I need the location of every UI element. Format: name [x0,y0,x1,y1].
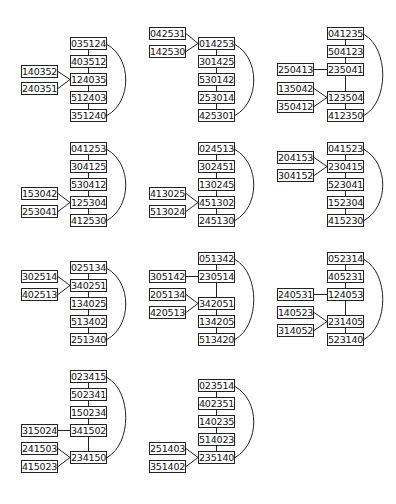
side-node: 253041 [21,205,58,218]
main-node: 341502 [70,424,107,437]
main-node: 035124 [70,37,107,50]
main-node: 125304 [70,196,107,209]
main-node: 023415 [70,370,107,383]
main-node: 051342 [198,252,235,265]
main-node: 530142 [198,73,235,86]
main-node: 134025 [70,297,107,310]
main-node: 235140 [198,451,235,464]
main-node: 134205 [198,315,235,328]
main-node: 123504 [327,91,364,104]
side-node: 241503 [21,442,58,455]
main-node: 514023 [198,433,235,446]
main-node: 502341 [70,388,107,401]
main-node: 301425 [198,55,235,68]
main-node: 041235 [327,27,364,40]
main-node: 412350 [327,109,364,122]
main-node: 504123 [327,45,364,58]
main-node: 124035 [70,73,107,86]
side-node: 413025 [149,187,186,200]
main-node: 523041 [327,178,364,191]
side-node: 315024 [21,424,58,437]
main-node: 234150 [70,451,107,464]
side-node: 042531 [149,27,186,40]
main-node: 405231 [327,270,364,283]
side-node: 250413 [277,63,314,76]
main-node: 023514 [198,379,235,392]
main-node: 041523 [327,142,364,155]
side-node: 351402 [149,460,186,473]
side-node: 205134 [149,288,186,301]
main-node: 451302 [198,196,235,209]
main-node: 304125 [70,160,107,173]
side-node: 513024 [149,205,186,218]
main-node: 523140 [327,333,364,346]
side-node: 140352 [21,65,58,78]
main-node: 340251 [70,279,107,292]
side-node: 302514 [21,270,58,283]
main-node: 231405 [327,315,364,328]
main-node: 230514 [198,270,235,283]
side-node: 153042 [21,187,58,200]
side-node: 135042 [277,82,314,95]
main-node: 124053 [327,288,364,301]
main-node: 402351 [198,397,235,410]
main-node: 415230 [327,214,364,227]
main-node: 425301 [198,109,235,122]
main-node: 251340 [70,333,107,346]
main-node: 152304 [327,196,364,209]
side-node: 305142 [149,270,186,283]
side-node: 142530 [149,45,186,58]
main-node: 041253 [70,142,107,155]
side-node: 402513 [21,288,58,301]
permutation-diagrams-canvas: 0351244035121240355124033512401403522403… [0,0,396,504]
side-node: 350412 [277,100,314,113]
main-node: 025134 [70,261,107,274]
main-node: 150234 [70,406,107,419]
main-node: 245130 [198,214,235,227]
side-node: 240351 [21,82,58,95]
main-node: 351240 [70,109,107,122]
main-node: 412530 [70,214,107,227]
main-node: 530412 [70,178,107,191]
main-node: 024513 [198,142,235,155]
main-node: 140235 [198,415,235,428]
main-node: 342051 [198,297,235,310]
main-node: 513402 [70,315,107,328]
main-node: 052314 [327,252,364,265]
side-node: 251403 [149,442,186,455]
main-node: 403512 [70,55,107,68]
main-node: 014253 [198,37,235,50]
side-node: 204153 [277,151,314,164]
side-node: 304152 [277,169,314,182]
side-node: 314052 [277,324,314,337]
main-node: 230415 [327,160,364,173]
main-node: 302451 [198,160,235,173]
main-node: 512403 [70,91,107,104]
main-node: 235041 [327,63,364,76]
main-node: 130245 [198,178,235,191]
side-node: 420513 [149,306,186,319]
side-node: 240531 [277,288,314,301]
side-node: 415023 [21,460,58,473]
main-node: 253014 [198,91,235,104]
side-node: 140523 [277,306,314,319]
main-node: 513420 [198,333,235,346]
